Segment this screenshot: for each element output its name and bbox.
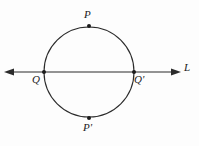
- arrowhead-right-icon: [171, 68, 181, 75]
- point-label-Q: Q: [32, 74, 40, 85]
- line-label-L: L: [184, 62, 190, 73]
- point-Q-dot: [42, 70, 46, 74]
- point-label-P-prime: P': [83, 122, 92, 133]
- point-label-Q-prime: Q': [134, 74, 144, 85]
- arrowhead-left-icon: [4, 68, 14, 75]
- figure-canvas: [0, 0, 199, 146]
- line-L: [4, 68, 181, 75]
- geometry-figure: P Q Q' P' L: [0, 0, 199, 146]
- point-P-prime-dot: [87, 116, 91, 120]
- point-P-dot: [87, 24, 91, 28]
- point-label-P: P: [84, 9, 91, 20]
